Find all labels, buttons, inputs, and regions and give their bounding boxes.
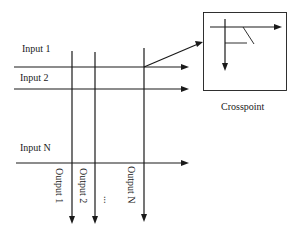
output-line-2 [92, 52, 98, 224]
output-line-n [141, 48, 147, 222]
outputs-ellipsis: ... [102, 196, 113, 204]
crosspoint-label: Crosspoint [221, 101, 265, 112]
callout-connector [144, 41, 203, 67]
arrow-down-icon [69, 216, 75, 224]
output-2-label: Output 2 [78, 168, 89, 203]
input-n-label: Input N [20, 142, 51, 153]
output-n-label: Output N [126, 166, 137, 204]
arrow-right-icon [181, 86, 189, 92]
arrow-right-icon [274, 24, 282, 30]
switch-contact-icon [243, 27, 254, 44]
input-line-2 [14, 86, 189, 92]
crossbar-diagram: Input 1 Input 2 Input N Output 1 Output … [0, 0, 298, 237]
crosspoint-inset [204, 13, 287, 91]
output-line-1 [69, 51, 75, 224]
input-2-label: Input 2 [20, 72, 49, 83]
arrow-right-icon [181, 160, 189, 166]
input-line-1 [14, 64, 189, 70]
arrow-icon [195, 41, 203, 47]
arrow-down-icon [222, 63, 228, 71]
input-line-n [16, 160, 189, 166]
input-1-label: Input 1 [22, 43, 51, 54]
arrow-down-icon [92, 216, 98, 224]
arrow-right-icon [181, 64, 189, 70]
output-1-label: Output 1 [54, 168, 65, 203]
arrow-down-icon [141, 214, 147, 222]
